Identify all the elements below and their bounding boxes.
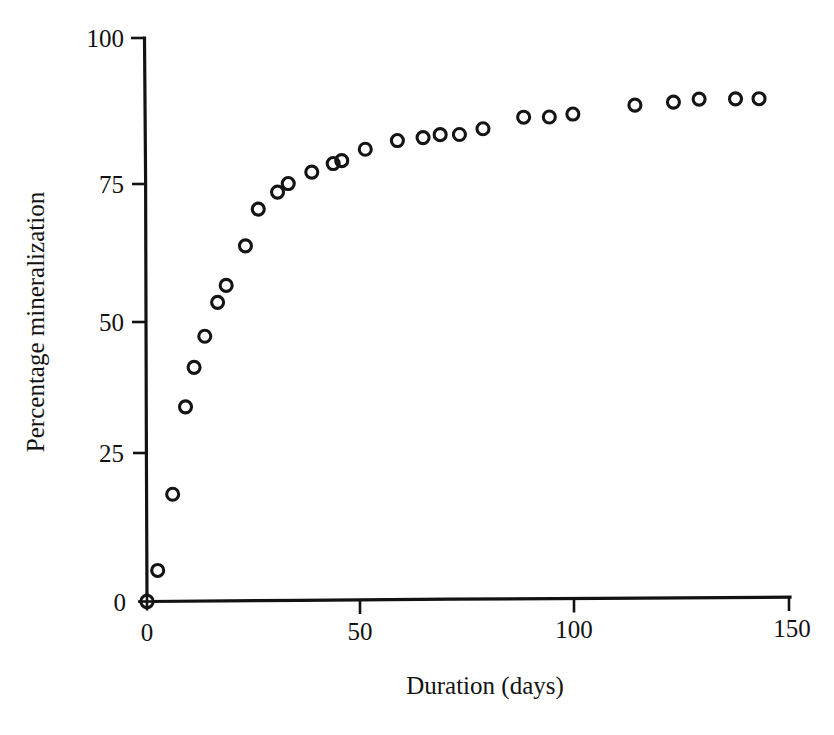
data-point — [730, 93, 742, 105]
y-axis-spine — [145, 38, 148, 601]
data-point — [359, 143, 371, 155]
x-tick-label-0: 0 — [141, 619, 154, 646]
data-point — [167, 488, 179, 500]
data-point — [188, 361, 200, 373]
data-point — [693, 93, 705, 105]
y-tick-label-100: 100 — [87, 25, 125, 52]
data-point — [252, 203, 264, 215]
data-point — [753, 93, 765, 105]
plot-canvas: 100 75 50 25 0 0 50 100 150 Duration (da… — [0, 0, 834, 735]
data-point — [434, 129, 446, 141]
data-point — [477, 123, 489, 135]
data-point — [629, 99, 641, 111]
data-point — [199, 330, 211, 342]
data-point — [417, 132, 429, 144]
data-point — [282, 178, 294, 190]
data-point — [180, 401, 192, 413]
data-point — [453, 129, 465, 141]
data-point — [391, 135, 403, 147]
y-tick-label-25: 25 — [99, 440, 124, 467]
data-point — [306, 166, 318, 178]
y-tick-label-75: 75 — [99, 171, 124, 198]
x-tick-label-50: 50 — [348, 618, 373, 645]
data-point — [152, 564, 164, 576]
data-point — [220, 279, 232, 291]
data-point-group — [138, 93, 765, 611]
x-axis-spine — [147, 597, 790, 601]
x-axis-title: Duration (days) — [406, 672, 564, 700]
y-tick-label-0: 0 — [114, 589, 127, 616]
scatter-chart-figure: 100 75 50 25 0 0 50 100 150 Duration (da… — [0, 0, 834, 735]
x-tick-label-150: 150 — [773, 615, 811, 642]
data-point — [239, 240, 251, 252]
y-tick-label-50: 50 — [99, 309, 124, 336]
data-point — [518, 111, 530, 123]
x-tick-label-100: 100 — [555, 616, 593, 643]
data-point — [543, 111, 555, 123]
data-point — [272, 186, 284, 198]
data-point — [567, 108, 579, 120]
data-point — [667, 96, 679, 108]
y-axis-title: Percentage mineralization — [22, 191, 49, 452]
data-point — [212, 296, 224, 308]
